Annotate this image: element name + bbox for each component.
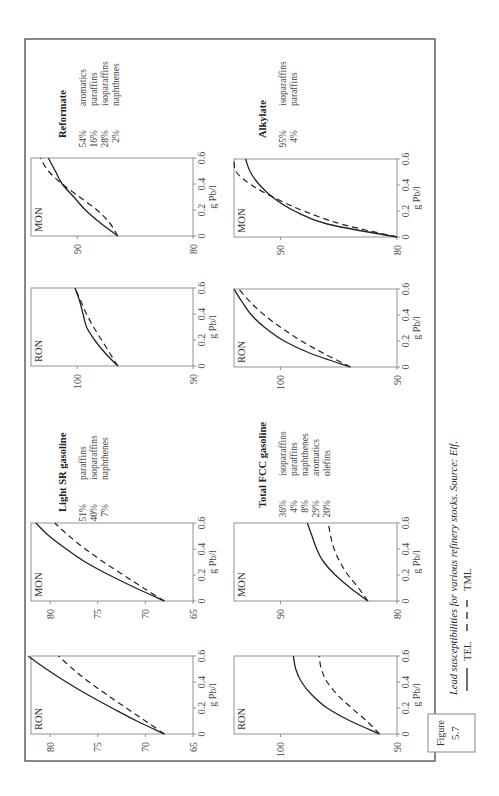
composition-component: naphthenes (100, 437, 110, 480)
composition-component: isoparaffins (89, 435, 99, 480)
x-tick-label: 0.6 (400, 517, 411, 530)
y-tick-label: 80 (392, 245, 403, 255)
x-tick-label: 0.6 (400, 650, 411, 663)
chart-panel-alkylate-ron: 00.20.40.6g Pb/l90100RON (234, 283, 422, 390)
composition-pct: 29% (311, 500, 321, 518)
x-tick-label: 0.4 (400, 309, 411, 322)
x-axis-label: g Pb/l (411, 683, 422, 707)
panel-label: RON (33, 339, 44, 362)
panel-label: RON (236, 340, 247, 363)
x-axis-label: g Pb/l (207, 550, 218, 574)
x-tick-label: 0.6 (196, 152, 207, 165)
plot-area (31, 523, 193, 601)
y-tick-label: 90 (275, 245, 286, 255)
y-tick-label: 90 (392, 375, 403, 385)
composition-pct: 16% (89, 130, 99, 148)
chart-panel-reformate-ron: 00.20.40.6g Pb/l90100RON (31, 282, 218, 389)
plot-area (31, 656, 193, 734)
y-tick-label: 100 (275, 742, 286, 757)
figure-caption: Lead susceptibilities for various refine… (448, 441, 459, 696)
figure-number: 5.7 (449, 726, 461, 740)
x-tick-label: 0.2 (196, 334, 207, 347)
legend: TEL TML (462, 569, 473, 691)
y-tick-label: 65 (188, 609, 199, 619)
composition-pct: 4% (289, 500, 299, 513)
composition-component: isoparaffins (278, 431, 288, 476)
panel-label: MON (33, 572, 44, 597)
y-tick-label: 70 (140, 742, 151, 752)
x-tick-label: 0.6 (400, 153, 411, 166)
panel-label: RON (33, 707, 44, 730)
plot-area (234, 523, 397, 601)
y-tick-label: 80 (392, 609, 403, 619)
x-tick-label: 0.6 (196, 282, 207, 295)
x-tick-label: 0.6 (400, 283, 411, 296)
composition-pct: 40% (89, 504, 99, 522)
composition-pct: 54% (78, 130, 88, 148)
y-tick-label: 100 (72, 374, 83, 389)
stock-title: Alkylate (257, 100, 268, 138)
stock-title: Reformate (57, 90, 68, 138)
figure-label: Figure (435, 719, 446, 746)
stock-info-light-sr-gasoline: Light SR gasoline51%paraffins40%isoparaf… (57, 432, 110, 521)
figure-page: 00.20.40.6g Pb/l8090MON00.20.40.6g Pb/l9… (0, 0, 499, 796)
x-tick-label: 0 (400, 599, 411, 604)
composition-pct: 51% (78, 504, 88, 522)
x-tick-label: 0.2 (400, 205, 411, 218)
chart-panel-light-sr-gasoline-mon: 00.20.40.6g Pb/l65707580MON (31, 517, 218, 619)
y-tick-label: 80 (45, 609, 56, 619)
y-tick-label: 90 (275, 609, 286, 619)
stock-title: Total FCC gasoline (257, 422, 268, 508)
x-tick-label: 0.2 (196, 569, 207, 582)
legend-tml-label: TML (462, 569, 473, 591)
y-tick-label: 70 (140, 609, 151, 619)
plot-area (234, 159, 397, 237)
x-axis-label: g Pb/l (207, 683, 218, 707)
x-tick-label: 0.2 (196, 204, 207, 217)
x-tick-label: 0 (400, 235, 411, 240)
stock-info-total-fcc-gasoline: Total FCC gasoline36%isoparaffins4%paraf… (257, 422, 332, 518)
composition-pct: 4% (289, 130, 299, 143)
composition-component: naphthenes (111, 63, 121, 106)
x-axis-label: g Pb/l (411, 186, 422, 210)
plot-area (234, 656, 397, 734)
x-axis-label: g Pb/l (411, 316, 422, 340)
y-tick-label: 90 (188, 374, 199, 384)
composition-pct: 36% (278, 500, 288, 518)
y-tick-label: 75 (92, 742, 103, 752)
composition-component: aromatics (78, 69, 88, 106)
chart-panel-total-fcc-gasoline-mon: 00.20.40.6g Pb/l8090MON (234, 517, 422, 619)
panel-label: MON (236, 572, 247, 597)
x-tick-label: 0.4 (196, 676, 207, 689)
x-tick-label: 0 (400, 365, 411, 370)
composition-component: isoparaffins (278, 61, 288, 106)
panel-label: MON (236, 208, 247, 233)
panel-label: RON (236, 707, 247, 730)
panel-label: MON (33, 207, 44, 232)
composition-pct: 7% (100, 504, 110, 517)
y-tick-label: 80 (188, 244, 199, 254)
composition-component: paraffins (289, 442, 299, 476)
composition-component: paraffins (78, 446, 88, 480)
x-tick-label: 0.2 (400, 569, 411, 582)
chart-panel-reformate-mon: 00.20.40.6g Pb/l8090MON (31, 152, 218, 254)
x-tick-label: 0.2 (400, 335, 411, 348)
composition-component: isoparaffins (100, 61, 110, 106)
stock-title: Light SR gasoline (57, 432, 68, 512)
x-tick-label: 0.2 (196, 702, 207, 715)
y-tick-label: 65 (188, 742, 199, 752)
x-axis-label: g Pb/l (207, 315, 218, 339)
chart-panel-light-sr-gasoline-ron: 00.20.40.6g Pb/l65707580RON (28, 650, 218, 752)
x-tick-label: 0 (196, 732, 207, 737)
x-tick-label: 0 (196, 234, 207, 239)
x-tick-label: 0.4 (196, 178, 207, 191)
composition-pct: 95% (278, 130, 288, 148)
x-tick-label: 0.6 (196, 517, 207, 530)
x-tick-label: 0.4 (400, 676, 411, 689)
y-tick-label: 80 (45, 742, 56, 752)
composition-pct: 2% (111, 130, 121, 143)
stock-info-alkylate: Alkylate95%isoparaffins4%paraffins (257, 61, 299, 147)
x-axis-label: g Pb/l (207, 185, 218, 209)
x-tick-label: 0.6 (196, 650, 207, 663)
composition-component: paraffins (89, 72, 99, 106)
